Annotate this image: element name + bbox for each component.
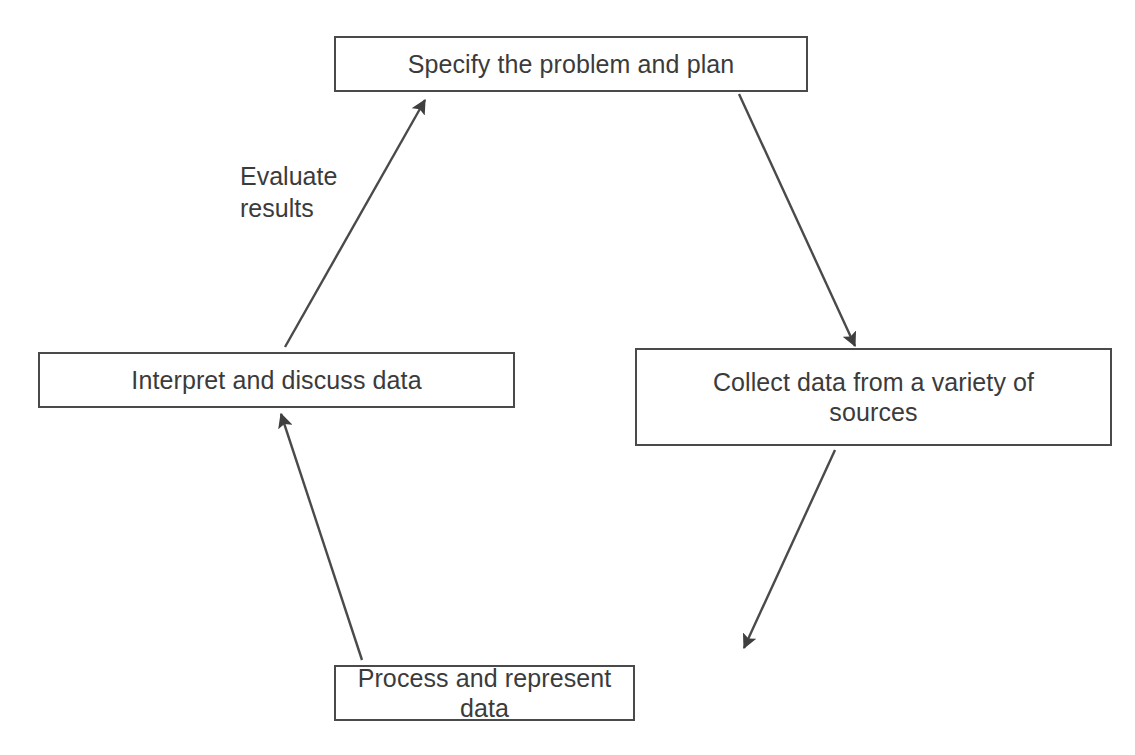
- node-label: Interpret and discuss data: [121, 365, 431, 396]
- node-label: Collect data from a variety of sources: [703, 367, 1044, 428]
- node-label: Specify the problem and plan: [398, 49, 745, 80]
- node-interpret-and-discuss-data[interactable]: Interpret and discuss data: [38, 352, 515, 408]
- node-collect-data-from-a-variety-of-sources[interactable]: Collect data from a variety of sources: [635, 348, 1112, 446]
- node-process-and-represent-data[interactable]: Process and represent data: [334, 665, 635, 721]
- node-label: Process and represent data: [336, 663, 633, 724]
- edge-specify-to-collect: [739, 94, 855, 346]
- edge-collect-to-process: [744, 450, 835, 648]
- edge-label-evaluate-results: Evaluate results: [240, 160, 430, 224]
- node-specify-the-problem-and-plan[interactable]: Specify the problem and plan: [334, 36, 808, 92]
- edge-process-to-interpret: [281, 414, 362, 660]
- diagram-canvas: Specify the problem and plan Collect dat…: [0, 0, 1135, 755]
